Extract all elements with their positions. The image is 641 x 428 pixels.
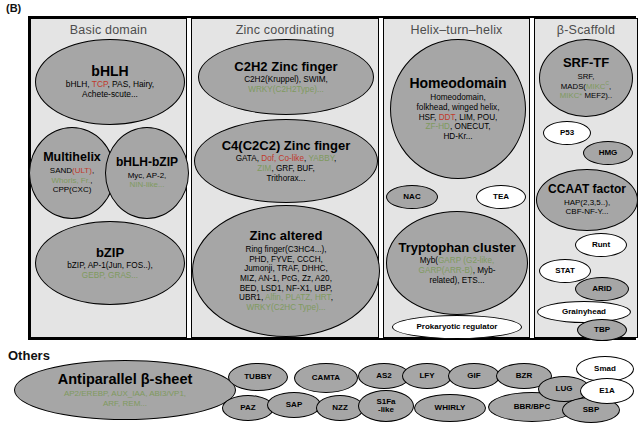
s1fa-label-line2: -like bbox=[378, 406, 394, 414]
domain-grid: Basic domain bHLH bHLH, TCP, PAS, Hairy,… bbox=[28, 16, 636, 340]
ellipse-arid: ARID bbox=[575, 277, 629, 301]
column-title-basic-domain: Basic domain bbox=[31, 23, 186, 37]
column-zinc-coordinating: Zinc coordinating C2H2 Zinc finger C2H2(… bbox=[191, 18, 379, 338]
bhlh-title: bHLH bbox=[91, 64, 128, 79]
paz-label: PAZ bbox=[240, 404, 255, 412]
bhlh-line1-b: , PAS, Hairy, bbox=[107, 79, 154, 89]
srf-l2-green: MIKC bbox=[586, 82, 606, 91]
srf-l1: SRF, bbox=[578, 72, 595, 81]
ellipse-prokaryotic-regulator: Prokaryotic regulator bbox=[392, 315, 522, 339]
ellipse-c2h2-zinc-finger: C2H2 Zinc finger C2H2(Kruppel), SWIM, WR… bbox=[198, 39, 374, 115]
sap-label: SAP bbox=[286, 401, 302, 409]
ccaat-l2: CBF-NF-Y... bbox=[566, 207, 609, 216]
bhlh-bzip-l2-green: NIN-like... bbox=[129, 180, 164, 189]
camta-label: CAMTA bbox=[312, 374, 340, 382]
ellipse-nzz: NZZ bbox=[316, 395, 364, 421]
ccaat-l1: HAP(2,3,5..), bbox=[564, 198, 610, 207]
c4-l2-green: ZIM bbox=[257, 164, 271, 173]
ellipse-tea: TEA bbox=[476, 185, 526, 209]
zinc-altered-l3: Jumonji, TRAF, DHHC, bbox=[244, 264, 328, 273]
ellipse-bzip: bZIP bZIP, AP-1(Jun, FOS..), GEBP, GRAS.… bbox=[35, 221, 185, 305]
ellipse-hmg: HMG bbox=[583, 141, 633, 165]
tryptophan-l2-green: GARP(ARR-B) bbox=[419, 266, 473, 275]
tryptophan-l1-a: Myb( bbox=[420, 256, 438, 265]
homeodomain-l5: HD-Kr... bbox=[443, 132, 472, 141]
ellipse-bhlh: bHLH bHLH, TCP, PAS, Hairy, Achete-scute… bbox=[35, 39, 185, 125]
ellipse-tubby: TUBBY bbox=[228, 363, 288, 391]
bzr-label: BZR bbox=[516, 372, 532, 380]
ellipse-camta: CAMTA bbox=[294, 363, 358, 393]
ellipse-bhlh-bzip: bHLH-bZIP Myc, AP-2, NIN-like... bbox=[105, 127, 189, 219]
bhlh-line2: Achete-scute... bbox=[82, 89, 138, 99]
others-label: Others bbox=[8, 348, 50, 363]
srf-l3-b: MEF2).. bbox=[582, 91, 612, 100]
c4-l1-green: YABBY bbox=[308, 154, 334, 163]
tea-label: TEA bbox=[493, 193, 509, 201]
zinc-altered-l2: PHD, FYVE, CCCH, bbox=[249, 255, 323, 264]
srf-tf-title: SRF-TF bbox=[563, 56, 609, 70]
c2h2-l2-green: WRKY(C2H2Type)... bbox=[248, 85, 324, 94]
zinc-altered-title: Zinc altered bbox=[250, 229, 323, 243]
column-basic-domain: Basic domain bHLH bHLH, TCP, PAS, Hairy,… bbox=[30, 18, 187, 338]
arid-label: ARID bbox=[592, 285, 612, 293]
ccaat-title: CCAAT factor bbox=[548, 183, 626, 196]
bbr-bpc-label: BBR/BPC bbox=[514, 403, 550, 411]
c4-l1-c: , bbox=[334, 154, 336, 163]
gif-label: GIF bbox=[467, 372, 480, 380]
c2h2-title: C2H2 Zinc finger bbox=[234, 60, 337, 74]
ellipse-lfy: LFY bbox=[402, 363, 452, 389]
ellipse-gif: GIF bbox=[448, 363, 500, 389]
ellipse-whirly: WHIRLY bbox=[414, 394, 486, 422]
smad-label: Smad bbox=[594, 365, 616, 373]
homeodomain-title: Homeodomain bbox=[409, 76, 506, 91]
zinc-altered-l4: MIZ, AN-1, PcG, Zz, A20, bbox=[240, 274, 332, 283]
c4-l1-red: Dof, Co-like bbox=[261, 154, 304, 163]
bhlh-bzip-title: bHLH-bZIP bbox=[116, 156, 178, 169]
bhlh-line1-red: TCP bbox=[92, 79, 108, 89]
ellipse-antiparallel-beta-sheet: Antiparallel β-sheet AP2/EREBP, AUX_IAA,… bbox=[14, 360, 236, 420]
ellipse-grainyhead: Grainyhead bbox=[537, 301, 631, 323]
homeodomain-l2: folkhead, winged helix, bbox=[417, 103, 500, 112]
tryptophan-l3: related), ETS... bbox=[429, 276, 484, 285]
tryptophan-l1-green: GARP (G2-like, bbox=[438, 256, 494, 265]
as2-label: AS2 bbox=[376, 372, 392, 380]
ellipse-tryptophan-cluster: Tryptophan cluster Myb(GARP (G2-like, GA… bbox=[386, 211, 528, 315]
antiparallel-l1-green: AP2/EREBP, AUX_IAA, ABI3/VP1, bbox=[64, 389, 186, 398]
homeodomain-l3-a: HSF, bbox=[419, 113, 439, 122]
zinc-altered-l7-green: WRKY(C2HC Type)... bbox=[246, 303, 325, 312]
homeodomain-l1: Homeodomain, bbox=[430, 93, 486, 102]
homeodomain-l4-green: ZF-HD bbox=[425, 122, 450, 131]
bhlh-line1-a: bHLH, bbox=[66, 79, 92, 89]
column-title-zinc-coordinating: Zinc coordinating bbox=[192, 23, 378, 37]
ellipse-sap: SAP bbox=[267, 392, 321, 418]
column-title-beta-scaffold: β-Scaffold bbox=[535, 23, 637, 37]
ellipse-homeodomain: Homeodomain Homeodomain, folkhead, winge… bbox=[390, 39, 526, 179]
column-helix-turn-helix: Helix–turn–helix Homeodomain Homeodomain… bbox=[383, 18, 530, 338]
tryptophan-l2-b: , Myb- bbox=[473, 266, 496, 275]
c4-title: C4(C2C2) Zinc finger bbox=[222, 139, 351, 153]
whirly-label: WHIRLY bbox=[435, 404, 466, 412]
zinc-altered-l6-green: Alfin, PLATZ, HRT bbox=[265, 293, 331, 302]
c4-l3: Trithorax... bbox=[267, 174, 306, 183]
tbp-label: TBP bbox=[594, 326, 610, 334]
bzip-title: bZIP bbox=[96, 246, 124, 260]
e1a-label: E1A bbox=[599, 387, 615, 395]
ellipse-p53: P53 bbox=[543, 121, 591, 145]
grainyhead-label: Grainyhead bbox=[562, 308, 606, 316]
sbp-label: SBP bbox=[583, 406, 599, 414]
bzip-l1: bZIP, AP-1(Jun, FOS..), bbox=[67, 261, 152, 270]
ellipse-nac: NAC bbox=[386, 185, 438, 209]
multihelix-l1-a: SAND bbox=[50, 166, 72, 175]
ellipse-multihelix: Multihelix SAND(ULT), Whorls, Fr., CPP(C… bbox=[29, 127, 115, 219]
homeodomain-l3-red: DDT bbox=[439, 113, 455, 122]
column-title-helix-turn-helix: Helix–turn–helix bbox=[384, 23, 529, 37]
zinc-altered-l5: BED, LSD1, NF-X1, UBP, bbox=[240, 284, 333, 293]
srf-l2-a: MADS( bbox=[561, 82, 586, 91]
multihelix-l2-green: Whorls, Fr. bbox=[52, 176, 91, 185]
hmg-label: HMG bbox=[599, 149, 618, 157]
ellipse-tbp: TBP bbox=[577, 319, 627, 341]
p53-label: P53 bbox=[560, 129, 574, 137]
runt-label: Runt bbox=[592, 241, 610, 249]
antiparallel-title: Antiparallel β-sheet bbox=[58, 372, 193, 387]
c2h2-l1: C2H2(Kruppel), SWIM, bbox=[244, 75, 328, 84]
